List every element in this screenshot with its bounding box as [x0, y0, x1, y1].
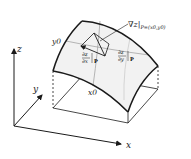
gradient-label: ∇z|P=(x0,y0) — [128, 20, 166, 31]
y-axis — [14, 95, 42, 126]
surface — [53, 21, 158, 112]
x-axis — [14, 126, 121, 144]
z-axis-label: z — [16, 44, 22, 54]
x0-label: x0 — [88, 88, 97, 97]
svg-text:∂z: ∂z — [82, 51, 88, 57]
svg-text:∂z: ∂z — [118, 49, 124, 55]
svg-text:P: P — [130, 56, 134, 62]
svg-text:∂x: ∂x — [82, 58, 89, 64]
y-axis-label: y — [32, 84, 39, 94]
x-axis-label: x — [126, 140, 131, 150]
svg-text:∂y: ∂y — [118, 56, 125, 63]
gradient-surface-diagram: z y x y0 x0 ∇z|P=(x0,y0) ∂z ∂x P ∂z ∂y P — [0, 0, 191, 159]
svg-text:P: P — [94, 58, 98, 64]
y0-label: y0 — [51, 37, 61, 46]
